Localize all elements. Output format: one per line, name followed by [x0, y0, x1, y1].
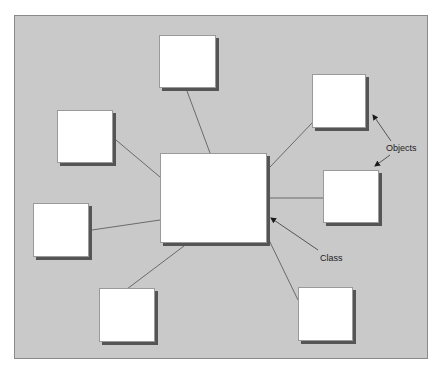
object-top-box [159, 35, 216, 88]
object-left-top-box [57, 110, 113, 163]
object-left-middle-box [33, 203, 89, 257]
object-right-box [323, 170, 379, 223]
object-bottom-right-box [298, 287, 353, 341]
object-bottom-left-box [99, 288, 155, 342]
class-label: Class [320, 253, 343, 263]
objects-label: Objects [386, 143, 417, 153]
object-top-right-box [312, 74, 366, 128]
class-box [160, 153, 267, 243]
